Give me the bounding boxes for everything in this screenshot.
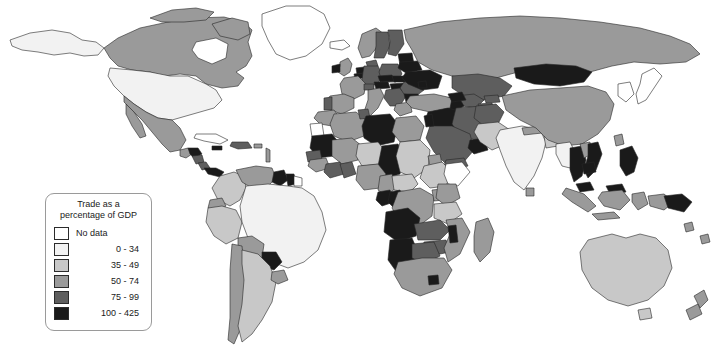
legend-swatch-50-74 <box>54 275 69 288</box>
region-moldova <box>418 81 427 88</box>
legend-entry-50-74: 50 - 74 <box>52 273 145 289</box>
region-pacific-islands <box>684 222 694 232</box>
region-puerto-rico <box>254 144 262 148</box>
legend-title-line-2: percentage of GDP <box>60 210 137 220</box>
region-jamaica <box>212 146 222 150</box>
region-austria <box>374 82 390 89</box>
region-kyrgyzstan <box>484 95 500 103</box>
region-malawi <box>448 225 458 243</box>
legend-entry-35-49: 35 - 49 <box>52 257 145 273</box>
legend-entry-no-data: No data <box>52 225 145 241</box>
legend-entry-75-99: 75 - 99 <box>52 289 145 305</box>
region-cambodia <box>582 162 596 174</box>
region-lesotho <box>428 275 439 285</box>
legend-label-50-74: 50 - 74 <box>69 276 145 286</box>
region-sri-lanka <box>526 188 534 196</box>
legend-entry-100-425: 100 - 425 <box>52 305 145 321</box>
region-fiji <box>700 234 710 244</box>
region-israel-jordan <box>424 114 434 127</box>
legend-label-0-34: 0 - 34 <box>69 244 145 254</box>
region-egypt <box>392 116 424 142</box>
legend-swatch-no-data <box>54 227 69 240</box>
legend-swatch-35-49 <box>54 259 69 272</box>
region-taiwan <box>614 134 624 146</box>
region-french-guiana <box>294 176 302 186</box>
legend-label-75-99: 75 - 99 <box>69 292 145 302</box>
legend-swatch-75-99 <box>54 291 69 304</box>
legend-label-no-data: No data <box>69 228 145 238</box>
region-tasmania <box>638 308 652 320</box>
legend-label-100-425: 100 - 425 <box>69 308 145 318</box>
legend-label-35-49: 35 - 49 <box>69 260 145 270</box>
map-legend: Trade as apercentage of GDP No data 0 - … <box>45 193 152 331</box>
region-lesser-antilles <box>266 148 270 162</box>
legend-entry-0-34: 0 - 34 <box>52 241 145 257</box>
world-map-figure: Trade as apercentage of GDP No data 0 - … <box>0 0 716 363</box>
legend-swatch-0-34 <box>54 243 69 256</box>
region-czech <box>378 75 394 82</box>
legend-swatch-100-425 <box>54 307 69 320</box>
legend-title: Trade as apercentage of GDP <box>52 199 145 221</box>
legend-title-line-1: Trade as a <box>77 199 120 209</box>
region-portugal <box>324 97 332 110</box>
